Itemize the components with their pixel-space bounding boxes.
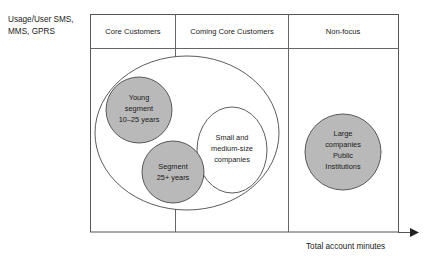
- young-segment-label-line-3: 10–25 years: [119, 115, 160, 124]
- young-segment-label-line-2: segment: [125, 104, 153, 113]
- segment-25-plus-circle: [142, 141, 204, 203]
- column-header-core-customers: Core Customers: [105, 27, 160, 36]
- bubble-segment-25-plus: Segment 25+ years: [142, 141, 204, 203]
- column-header-coming-core-customers: Coming Core Customers: [190, 27, 274, 36]
- large-companies-label-line-1: Large: [334, 129, 353, 138]
- small-medium-companies-label-line-1: Small and: [216, 133, 249, 142]
- x-axis-arrow-head: [410, 228, 419, 237]
- y-axis-label: Usage/User SMS, MMS, GPRS: [8, 15, 74, 36]
- bubble-young-segment: Young segment 10–25 years: [106, 77, 172, 143]
- small-medium-companies-label-line-3: companies: [214, 155, 250, 164]
- segment-25-plus-label-line-2: 25+ years: [157, 173, 190, 182]
- large-companies-label-line-2: companies: [325, 140, 361, 149]
- y-axis-label-line-2: MMS, GPRS: [8, 27, 55, 36]
- y-axis-label-line-1: Usage/User SMS,: [8, 15, 74, 24]
- segment-25-plus-label-line-1: Segment: [158, 162, 188, 171]
- x-axis-arrow-icon: [398, 228, 419, 237]
- large-companies-label-line-4: Institutions: [325, 162, 361, 171]
- segmentation-diagram: Usage/User SMS, MMS, GPRS Core Customers…: [0, 0, 426, 261]
- young-segment-label-line-1: Young: [129, 93, 150, 102]
- large-companies-label-line-3: Public: [333, 151, 353, 160]
- column-header-non-focus: Non-focus: [326, 27, 361, 36]
- x-axis-title: Total account minutes: [306, 242, 385, 251]
- small-medium-companies-label-line-2: medium-size: [211, 144, 253, 153]
- bubble-large-companies-public-institutions: Large companies Public Institutions: [305, 114, 381, 190]
- bubble-small-medium-companies: Small and medium-size companies: [197, 107, 267, 193]
